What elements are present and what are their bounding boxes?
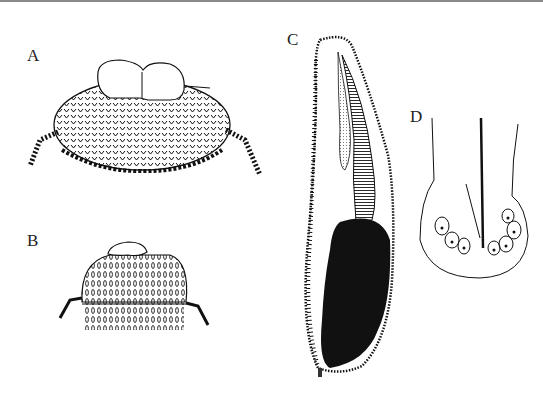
illustration bbox=[0, 0, 543, 404]
panel-a-drawing bbox=[30, 60, 260, 175]
panel-d-drawing bbox=[420, 118, 528, 278]
panel-c-drawing bbox=[306, 37, 394, 377]
panel-b-drawing bbox=[60, 242, 208, 330]
